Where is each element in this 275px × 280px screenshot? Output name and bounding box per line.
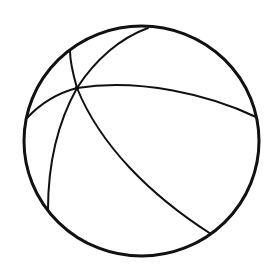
seam-bottom-right — [77, 88, 211, 234]
beach-ball-figure: beach ball line drawing — [0, 0, 275, 280]
beach-ball-icon — [0, 0, 275, 280]
seam-hub — [75, 86, 79, 90]
seam-top — [77, 28, 148, 88]
seam-right — [77, 85, 256, 117]
ball-outline — [24, 26, 259, 256]
seam-bottom-left — [48, 88, 77, 210]
seam-top-left — [70, 51, 77, 88]
